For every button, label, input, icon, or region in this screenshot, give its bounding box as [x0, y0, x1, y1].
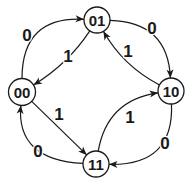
state-label-10: 10 [163, 83, 180, 100]
transition-label-10-01: 1 [123, 42, 132, 61]
state-label-01: 01 [89, 12, 106, 29]
transition-label-01-10: 0 [147, 19, 156, 38]
transition-label-00-01: 0 [22, 26, 31, 45]
transition-label-10-11: 0 [160, 134, 169, 153]
transition-label-01-00: 1 [63, 47, 72, 66]
diagram-canvas: 0000111100011011 [0, 0, 194, 181]
transition-edge-01-00 [34, 31, 90, 85]
transition-label-00-11: 1 [54, 105, 63, 124]
transition-label-11-00: 0 [33, 142, 42, 161]
transition-edge-01-10 [110, 20, 170, 78]
transition-label-11-10: 1 [125, 108, 134, 127]
transition-edge-11-00 [20, 105, 83, 163]
state-label-11: 11 [88, 156, 104, 173]
state-label-00: 00 [14, 84, 31, 101]
state-node-00: 00 [9, 79, 36, 106]
state-node-11: 11 [83, 151, 109, 177]
state-diagram: 0000111100011011 [0, 0, 194, 181]
state-node-10: 10 [158, 78, 184, 104]
state-node-01: 01 [84, 7, 110, 33]
